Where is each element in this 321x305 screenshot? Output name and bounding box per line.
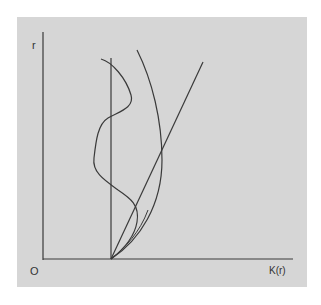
arc-curve [111, 50, 162, 259]
origin-label: O [30, 266, 39, 277]
y-axis-label: r [32, 40, 36, 51]
diagram-svg [0, 0, 321, 305]
x-axis-label: K(r) [269, 266, 286, 276]
inner-curve [111, 210, 148, 259]
wiggly-curve [94, 59, 138, 259]
diagonal-line [111, 62, 203, 259]
